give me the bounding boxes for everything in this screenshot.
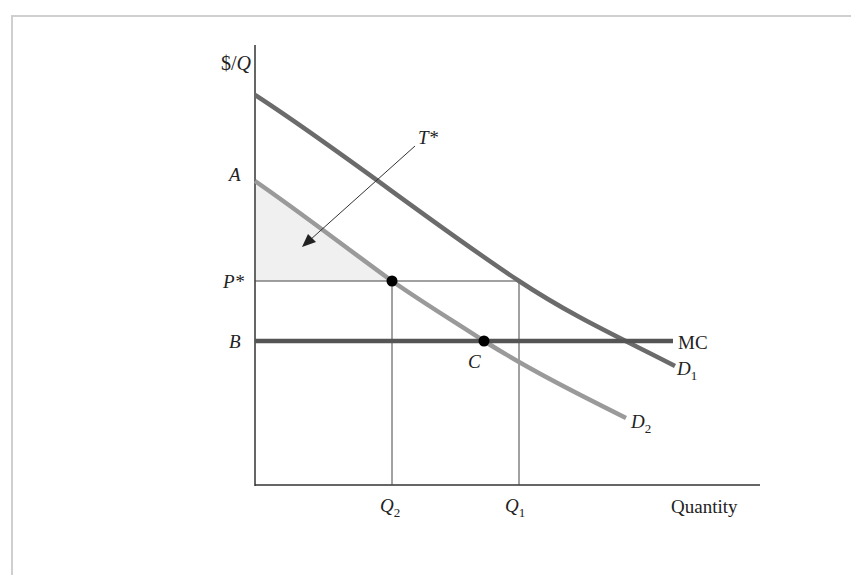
label-q1: Q1 <box>505 495 525 520</box>
point-p-star-q2 <box>387 276 398 287</box>
t-star-arrow <box>310 146 415 240</box>
label-d2: D2 <box>630 411 651 436</box>
label-t-star: T* <box>418 127 439 148</box>
label-mc: MC <box>678 332 708 353</box>
label-p-star: P* <box>222 271 245 292</box>
x-axis-label: Quantity <box>671 496 738 517</box>
label-b: B <box>229 331 241 352</box>
label-a: A <box>227 164 241 185</box>
y-axis-label: $/Q <box>221 52 252 74</box>
label-c: C <box>468 351 481 372</box>
point-c <box>479 336 490 347</box>
label-q2: Q2 <box>380 495 400 520</box>
label-d1: D1 <box>676 358 697 383</box>
d2-curve <box>255 181 626 418</box>
